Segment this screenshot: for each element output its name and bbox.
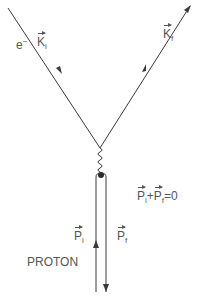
proton-left-line <box>96 173 101 292</box>
k-final-label: Kf <box>163 28 173 45</box>
proton-up-arrow-icon <box>93 240 99 248</box>
p-initial-label: Pi <box>74 230 84 247</box>
outgoing-electron-arrow-end-icon <box>184 5 191 13</box>
proton-down-arrow-icon <box>103 284 109 292</box>
photon-wavy-line <box>98 148 102 176</box>
k-initial-label: Ki <box>37 36 47 53</box>
proton-right-line <box>101 173 106 292</box>
p-final-label: Pf <box>117 230 127 247</box>
outgoing-electron-arrow-mid-icon <box>142 64 146 72</box>
outgoing-electron-line <box>100 6 190 148</box>
incoming-electron-arrow-icon <box>56 66 62 74</box>
momentum-conservation-equation: Pi+Pf=0 <box>137 190 178 207</box>
incoming-electron-line <box>8 8 100 148</box>
proton-label: PROTON <box>27 256 78 268</box>
electron-label: e− <box>16 36 27 51</box>
